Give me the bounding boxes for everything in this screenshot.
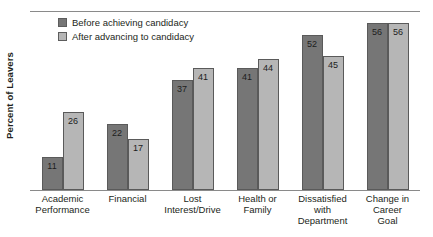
bar[interactable]: 22 <box>107 124 128 190</box>
bar-value-label: 56 <box>368 27 387 37</box>
x-axis-label-line: Dissatisfied <box>290 193 355 204</box>
y-axis-title-label: Percent of Leavers <box>4 52 15 139</box>
bar-group: 5656 <box>355 11 420 190</box>
x-axis-label: Change inCareerGoal <box>355 193 420 226</box>
bar-value-label: 41 <box>238 72 257 82</box>
bar[interactable]: 56 <box>388 23 409 190</box>
bar[interactable]: 44 <box>258 59 279 190</box>
y-axis-title: Percent of Leavers <box>0 0 18 190</box>
bar[interactable]: 41 <box>237 68 258 190</box>
bar-value-label: 44 <box>259 63 278 73</box>
bar[interactable]: 26 <box>63 112 84 190</box>
bar-value-label: 45 <box>324 60 343 70</box>
x-axis-label-line: Goal <box>355 215 420 226</box>
x-axis-label-line: Academic <box>30 193 95 204</box>
bar-value-label: 52 <box>303 39 322 49</box>
x-axis-label-line: with <box>290 204 355 215</box>
bar-group: 1126 <box>30 11 95 190</box>
x-axis-label-line: Interest/Drive <box>160 204 225 215</box>
bar-group: 2217 <box>95 11 160 190</box>
bar[interactable]: 17 <box>128 139 149 190</box>
bar-group-bars: 2217 <box>95 11 160 190</box>
x-axis-label-line: Health or <box>225 193 290 204</box>
x-axis-label-line: Department <box>290 215 355 226</box>
bar-group-bars: 4144 <box>225 11 290 190</box>
bar-value-label: 22 <box>108 128 127 138</box>
bar[interactable]: 45 <box>323 56 344 190</box>
bar-chart: Before achieving candidacyAfter advancin… <box>0 0 433 237</box>
x-axis-label: DissatisfiedwithDepartment <box>290 193 355 226</box>
x-axis-label: LostInterest/Drive <box>160 193 225 215</box>
plot-area: 112622173741414452455656 <box>30 11 420 190</box>
bar-value-label: 56 <box>389 27 408 37</box>
bar[interactable]: 41 <box>193 68 214 190</box>
x-axis-label-line: Performance <box>30 204 95 215</box>
bar-value-label: 11 <box>43 161 62 171</box>
bar-group-bars: 1126 <box>30 11 95 190</box>
x-axis-label-line: Family <box>225 204 290 215</box>
x-axis-labels: AcademicPerformanceFinancialLostInterest… <box>30 193 420 237</box>
x-axis-label: AcademicPerformance <box>30 193 95 215</box>
x-axis-label: Financial <box>95 193 160 204</box>
bar[interactable]: 37 <box>172 80 193 190</box>
bar-group-bars: 5656 <box>355 11 420 190</box>
bar[interactable]: 56 <box>367 23 388 190</box>
bar-group-bars: 5245 <box>290 11 355 190</box>
bar-group-bars: 3741 <box>160 11 225 190</box>
x-axis-label-line: Lost <box>160 193 225 204</box>
x-axis-label: Health orFamily <box>225 193 290 215</box>
x-axis-label-line: Change in <box>355 193 420 204</box>
bar-value-label: 26 <box>64 116 83 126</box>
bar-value-label: 41 <box>194 72 213 82</box>
bar-group: 3741 <box>160 11 225 190</box>
x-axis-label-line: Financial <box>95 193 160 204</box>
bar[interactable]: 52 <box>302 35 323 190</box>
bar-value-label: 17 <box>129 143 148 153</box>
bar-group: 4144 <box>225 11 290 190</box>
bar[interactable]: 11 <box>42 157 63 190</box>
x-axis-baseline <box>30 190 420 191</box>
bar-group: 5245 <box>290 11 355 190</box>
x-axis-label-line: Career <box>355 204 420 215</box>
bar-value-label: 37 <box>173 84 192 94</box>
